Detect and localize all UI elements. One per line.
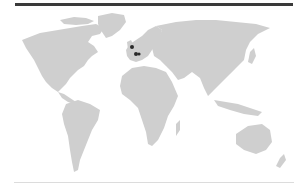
landmasses xyxy=(22,13,286,172)
greenland xyxy=(98,13,126,38)
japan xyxy=(248,48,256,64)
map-marker-uk[interactable] xyxy=(130,45,134,49)
map-marker-germany[interactable] xyxy=(137,52,140,55)
indonesia xyxy=(214,100,262,116)
map-marker-benelux[interactable] xyxy=(134,52,138,56)
australia xyxy=(236,124,272,154)
bottom-divider xyxy=(14,182,294,183)
world-map[interactable] xyxy=(0,0,307,189)
africa xyxy=(120,66,178,146)
north-america xyxy=(22,24,104,92)
new-zealand xyxy=(276,154,286,168)
arctic-islands xyxy=(60,17,94,25)
south-america xyxy=(62,100,100,172)
madagascar xyxy=(176,120,180,136)
